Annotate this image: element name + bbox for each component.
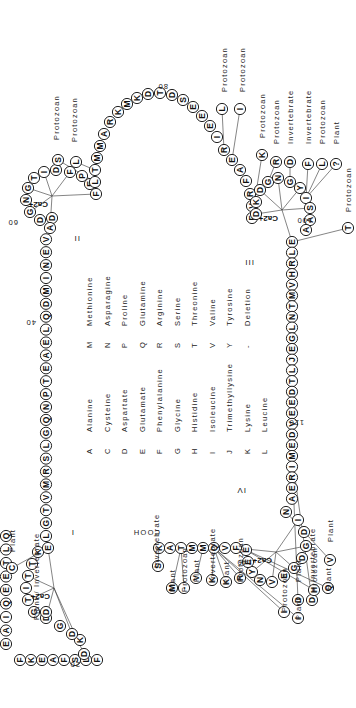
residue-127: N: [280, 506, 291, 517]
key-code-V: V: [208, 342, 217, 348]
svg-text:E: E: [43, 545, 53, 551]
substitution-10: F: [302, 158, 313, 169]
svg-text:V: V: [287, 282, 297, 288]
svg-text:A: A: [1, 627, 11, 633]
position-120: 120: [288, 418, 304, 427]
key-name-P: Proline: [120, 294, 129, 326]
residue-79: S: [177, 94, 188, 105]
residue-8: A: [0, 625, 11, 636]
residue-126: A: [286, 493, 297, 504]
substitution-label-8: Protozoan: [272, 99, 281, 144]
residue-116: D: [286, 386, 297, 397]
svg-text:E: E: [287, 346, 297, 352]
svg-text:D: D: [67, 631, 77, 637]
svg-text:T: T: [287, 303, 297, 309]
svg-text:Q: Q: [1, 600, 11, 607]
substitution-label-23: Protozoan: [236, 537, 245, 582]
residue-48: D: [40, 298, 51, 309]
svg-text:E: E: [41, 365, 51, 371]
svg-text:Y: Y: [295, 185, 305, 191]
residue-10: F: [14, 654, 25, 665]
svg-text:V: V: [267, 579, 277, 585]
residue-43: E: [40, 363, 51, 374]
residue-36: S: [40, 453, 51, 464]
svg-text:I: I: [1, 616, 11, 618]
residue-31: G: [40, 518, 51, 529]
svg-text:R: R: [287, 474, 297, 480]
residue-68: T: [89, 164, 100, 175]
substitution-3: S: [52, 154, 63, 165]
key-name-A: Alanine: [85, 398, 94, 432]
svg-text:E: E: [41, 249, 51, 255]
key-name-Q: Glutamine: [138, 280, 147, 326]
residue-41: P: [40, 389, 51, 400]
svg-text:M: M: [122, 100, 132, 107]
svg-text:A: A: [48, 657, 58, 663]
svg-text:R: R: [271, 159, 281, 165]
residue-32: T: [40, 505, 51, 516]
residue-123: I: [286, 461, 297, 472]
substitution-label-7: Protozoan: [258, 93, 267, 138]
svg-text:M: M: [198, 544, 208, 551]
key-name-S: Serine: [173, 297, 182, 326]
svg-text:N: N: [273, 175, 283, 181]
svg-text:L: L: [90, 179, 100, 184]
residue-33: V: [40, 492, 51, 503]
residue-92: K: [250, 196, 261, 207]
key-name-N: Asparagine: [103, 275, 112, 326]
residue-51: N: [40, 260, 51, 271]
key-code-D: D: [120, 447, 129, 454]
residue-52: E: [40, 247, 51, 258]
svg-text:E: E: [287, 410, 297, 416]
svg-text:A: A: [41, 352, 51, 358]
residue-59: G: [22, 182, 33, 193]
residue-46: L: [40, 324, 51, 335]
residue-107: M: [286, 290, 297, 301]
key-name-H: Histidine: [190, 392, 199, 432]
svg-text:E: E: [1, 587, 11, 593]
rotated-diagram: QLTEEQIAEFKEAFSLFDKDGDGTITTKELGTVMRSLGQN…: [0, 0, 356, 708]
svg-text:I: I: [235, 108, 245, 110]
residue-17: F: [91, 654, 102, 665]
residue-145: A: [164, 542, 175, 553]
svg-text:F: F: [65, 169, 75, 174]
residue-140: V: [219, 542, 230, 553]
svg-text:Y: Y: [247, 569, 257, 575]
residue-120: D: [286, 429, 297, 440]
residue-97: Y: [294, 182, 305, 193]
svg-text:E: E: [227, 157, 237, 163]
key-code-C: C: [103, 447, 112, 454]
svg-text:?: ?: [331, 161, 341, 166]
key-name-G: Glycine: [173, 398, 182, 432]
svg-text:A: A: [235, 167, 245, 173]
svg-text:D: D: [41, 301, 51, 307]
svg-text:H: H: [287, 271, 297, 277]
svg-text:I: I: [21, 587, 31, 589]
residue-101: A: [300, 224, 311, 235]
residue-56: D: [34, 214, 45, 225]
substitution-label-4: Protozoan: [70, 97, 79, 142]
svg-text:D: D: [47, 215, 57, 221]
residue-30: L: [40, 530, 51, 541]
residue-70: M: [94, 140, 105, 151]
svg-text:K: K: [132, 94, 142, 101]
svg-text:Q: Q: [41, 416, 51, 423]
svg-text:I: I: [39, 171, 49, 173]
key-name-Y: Tyrosine: [225, 287, 234, 326]
residue-54: D: [46, 212, 57, 223]
residue-118: E: [286, 408, 297, 419]
svg-text:G: G: [287, 335, 297, 342]
svg-text:C: C: [7, 565, 17, 571]
key-code-K: K: [243, 448, 252, 454]
svg-text:N: N: [41, 404, 51, 410]
residue-14: F: [58, 654, 69, 665]
svg-text:P: P: [77, 173, 87, 179]
svg-text:T: T: [343, 225, 353, 231]
position-80: 80: [158, 82, 168, 91]
substitution-16: V: [324, 554, 335, 565]
substitution-label-9: Invertebrate: [286, 90, 295, 144]
svg-text:T: T: [287, 378, 297, 384]
residue-96: G: [284, 176, 295, 187]
residue-66: F: [90, 188, 101, 199]
svg-text:G: G: [41, 519, 51, 526]
